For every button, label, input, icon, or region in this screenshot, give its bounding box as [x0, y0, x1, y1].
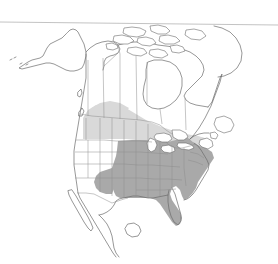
- hudson-bay-outline: [143, 60, 182, 109]
- mexico-west-coast: [78, 193, 116, 257]
- top-horizontal-rule: [0, 22, 278, 25]
- baja-california-outline: [68, 190, 93, 231]
- cape-breton-outline: [210, 132, 218, 139]
- distribution-map-figure: [0, 0, 278, 264]
- us-west-coast: [74, 108, 81, 193]
- yucatan-outline: [125, 223, 141, 237]
- queen-charlotte-outline: [78, 89, 82, 97]
- greenland-edge-outline: [214, 26, 242, 77]
- map-canvas: [0, 0, 278, 264]
- mexico-east-coast: [99, 215, 119, 257]
- newfoundland-outline: [214, 116, 234, 133]
- coastline-outlines: [10, 25, 242, 257]
- alaska-outline: [19, 29, 86, 71]
- british-columbia-coast: [81, 54, 86, 108]
